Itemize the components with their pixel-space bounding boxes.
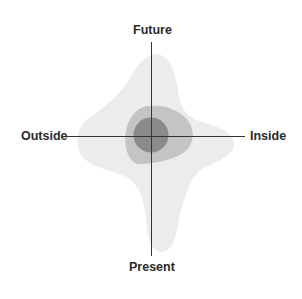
axis-label-right: Inside [250,129,286,143]
axis-label-left: Outside [21,129,68,143]
axis-label-top: Future [133,23,172,37]
axis-label-bottom: Present [129,260,175,274]
quadrant-diagram [0,0,302,299]
